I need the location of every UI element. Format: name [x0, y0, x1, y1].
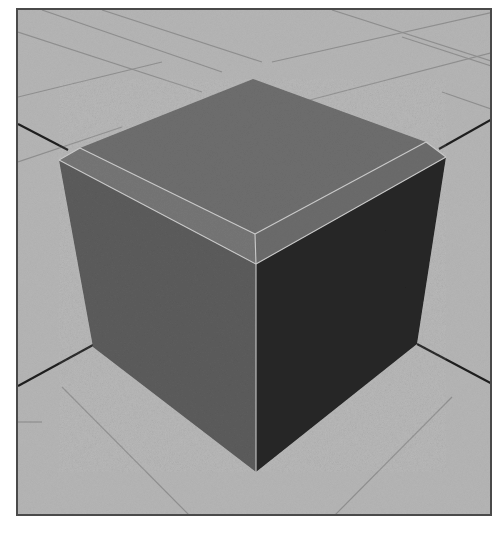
3d-viewport[interactable]: 3D perspective viewport — [16, 8, 492, 516]
viewport-scene[interactable] — [16, 8, 492, 516]
